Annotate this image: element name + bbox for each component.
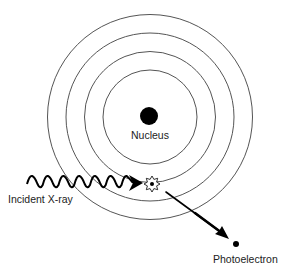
photoelectron-label: Photoelectron — [213, 254, 278, 265]
nucleus-icon — [140, 107, 158, 125]
interaction-starburst-icon — [144, 176, 160, 192]
photoelectron-dot-icon — [233, 241, 239, 247]
nucleus-label: Nucleus — [131, 130, 169, 141]
incident-xray-arrowhead-icon — [129, 175, 143, 191]
incident-xray-label: Incident X-ray — [8, 194, 73, 205]
ejection-arrow-shaft-thick — [195, 213, 222, 233]
incident-xray-wave — [27, 176, 133, 187]
